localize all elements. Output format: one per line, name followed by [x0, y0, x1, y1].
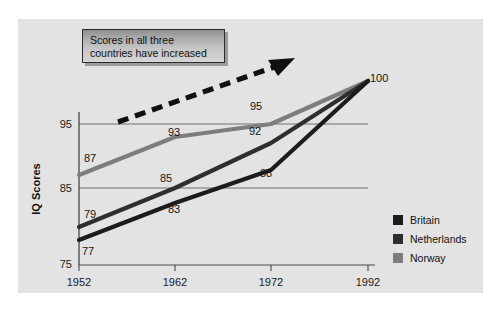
callout-line-2: countries have increased: [90, 47, 217, 60]
legend-label-britain: Britain: [410, 214, 440, 226]
chart-legend: Britain Netherlands Norway: [393, 212, 479, 269]
data-label-netherlands-1962: 85: [160, 172, 172, 184]
data-label-britain-1952: 77: [82, 245, 94, 257]
series-line-norway: [79, 81, 368, 175]
y-tick-label-75: 75: [44, 258, 72, 270]
data-label-norway-1952: 87: [84, 152, 96, 164]
chart-figure: Scores in all three countries have incre…: [0, 0, 501, 311]
data-label-britain-1962: 83: [168, 203, 180, 215]
callout-box: Scores in all three countries have incre…: [82, 29, 225, 63]
x-tick-label-1952: 1952: [57, 276, 101, 288]
legend-label-netherlands: Netherlands: [410, 233, 467, 245]
data-label-converged-1992: 100: [370, 72, 388, 84]
data-label-norway-1962: 93: [168, 126, 180, 138]
x-tick-label-1962: 1962: [153, 276, 197, 288]
data-label-britain-1972: 88: [260, 167, 272, 179]
legend-label-norway: Norway: [410, 252, 446, 264]
x-tick-label-1992: 1992: [346, 276, 390, 288]
legend-item-norway: Norway: [393, 250, 479, 266]
y-tick-label-85: 85: [44, 182, 72, 194]
data-label-netherlands-1952: 79: [84, 208, 96, 220]
legend-swatch-britain: [393, 215, 403, 225]
x-tick-label-1972: 1972: [249, 276, 293, 288]
dashed-trend-arrow: [118, 58, 295, 122]
series-line-britain: [79, 81, 368, 240]
legend-item-britain: Britain: [393, 212, 479, 228]
legend-swatch-norway: [393, 253, 403, 263]
series-line-netherlands: [79, 81, 368, 227]
legend-swatch-netherlands: [393, 234, 403, 244]
y-tick-label-95: 95: [44, 118, 72, 130]
callout-line-1: Scores in all three: [90, 34, 217, 47]
data-label-norway-1972: 95: [250, 100, 262, 112]
legend-item-netherlands: Netherlands: [393, 231, 479, 247]
data-label-netherlands-1972: 92: [249, 125, 261, 137]
y-axis-title: IQ Scores: [30, 149, 42, 229]
